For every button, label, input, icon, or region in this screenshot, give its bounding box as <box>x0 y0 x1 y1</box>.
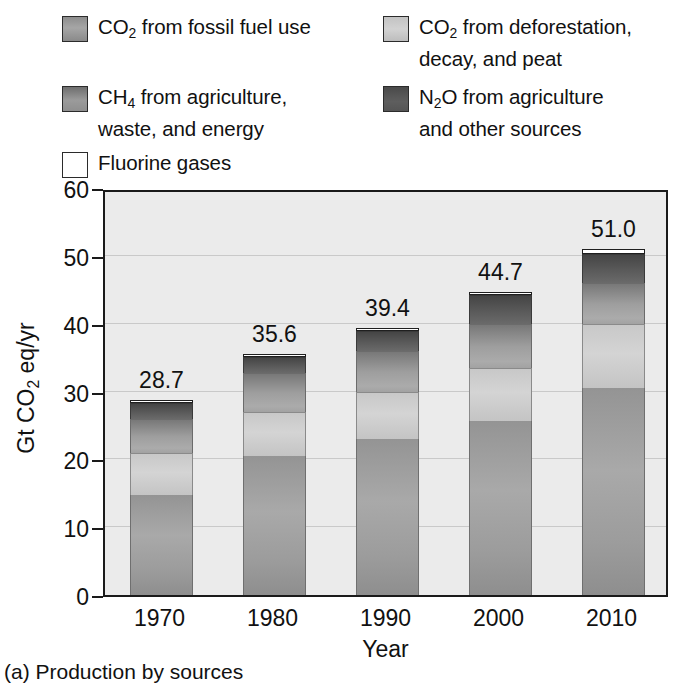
y-axis-title: Gt CO2 eq/yr <box>13 268 42 508</box>
bar-total-label: 39.4 <box>365 297 410 320</box>
y-tick-mark <box>92 189 103 191</box>
bar-segment-ch4 <box>356 351 419 392</box>
bar-segment-defor <box>130 453 193 495</box>
x-axis: 19701980199020002010 <box>103 597 668 637</box>
bar-segment-n2o <box>582 254 645 283</box>
x-tick-label: 1970 <box>134 605 185 632</box>
bar-segment-defor <box>582 324 645 388</box>
bar-total-label: 51.0 <box>591 218 636 241</box>
y-tick-mark <box>92 528 103 530</box>
bar-2010[interactable] <box>582 249 645 595</box>
chart-legend: CO2 from fossil fuel use CO2 from defore… <box>0 0 688 178</box>
legend-swatch-co2-deforestation <box>383 16 409 42</box>
y-tick-label: 10 <box>63 518 89 541</box>
plot-area: 28.735.639.444.751.0 <box>103 190 668 597</box>
legend-swatch-co2-fossil <box>62 16 88 42</box>
legend-item-co2-deforestation: CO2 from deforestation, decay, and peat <box>383 14 632 71</box>
y-axis: Gt CO2 eq/yr 0102030405060 <box>0 178 103 598</box>
legend-label-ch4: CH4 from agriculture, waste, and energy <box>98 84 287 141</box>
y-tick-mark <box>92 257 103 259</box>
figure-caption: (a) Production by sources <box>4 660 243 684</box>
x-tick-label: 2010 <box>586 605 637 632</box>
y-tick-mark <box>92 325 103 327</box>
legend-label-fluorine: Fluorine gases <box>98 150 231 175</box>
legend-item-n2o: N2O from agriculture and other sources <box>383 84 604 141</box>
bar-segment-n2o <box>243 357 306 373</box>
bar-1980[interactable] <box>243 354 306 595</box>
bar-1990[interactable] <box>356 328 419 595</box>
bar-segment-defor <box>243 412 306 456</box>
bar-segment-ch4 <box>130 419 193 453</box>
legend-swatch-ch4 <box>62 86 88 112</box>
bar-segment-fossil <box>469 421 532 595</box>
y-tick-label: 30 <box>63 382 89 405</box>
bar-segment-fossil <box>243 456 306 595</box>
bar-segment-ch4 <box>469 324 532 368</box>
legend-swatch-fluorine <box>62 152 88 178</box>
bar-segment-ch4 <box>582 283 645 324</box>
bar-segment-fossil <box>356 439 419 595</box>
bar-segment-n2o <box>356 331 419 351</box>
x-tick-label: 1980 <box>247 605 298 632</box>
bar-segment-n2o <box>130 403 193 419</box>
x-tick-label: 2000 <box>473 605 524 632</box>
bar-2000[interactable] <box>469 292 532 595</box>
y-tick-label: 60 <box>63 179 89 202</box>
x-axis-title: Year <box>103 636 668 663</box>
bar-segment-defor <box>356 392 419 439</box>
y-tick-mark <box>92 596 103 598</box>
bar-segment-ch4 <box>243 373 306 412</box>
y-tick-mark <box>92 393 103 395</box>
bar-total-label: 28.7 <box>139 369 184 392</box>
y-tick-label: 50 <box>63 246 89 269</box>
bar-total-label: 44.7 <box>478 261 523 284</box>
y-tick-label: 0 <box>76 586 89 609</box>
legend-item-fluorine: Fluorine gases <box>62 150 231 178</box>
bar-segment-defor <box>469 368 532 422</box>
legend-swatch-n2o <box>383 86 409 112</box>
legend-item-co2-fossil: CO2 from fossil fuel use <box>62 14 311 46</box>
x-tick-label: 1990 <box>360 605 411 632</box>
bar-segment-n2o <box>469 295 532 323</box>
y-tick-label: 20 <box>63 450 89 473</box>
bar-1970[interactable] <box>130 400 193 595</box>
legend-label-co2-deforestation: CO2 from deforestation, decay, and peat <box>419 14 632 71</box>
legend-item-ch4: CH4 from agriculture, waste, and energy <box>62 84 287 141</box>
legend-label-n2o: N2O from agriculture and other sources <box>419 84 604 141</box>
legend-label-co2-fossil: CO2 from fossil fuel use <box>98 14 311 46</box>
bar-segment-fossil <box>582 388 645 595</box>
y-tick-mark <box>92 460 103 462</box>
y-tick-label: 40 <box>63 314 89 337</box>
bar-segment-fossil <box>130 495 193 595</box>
bar-total-label: 35.6 <box>252 323 297 346</box>
